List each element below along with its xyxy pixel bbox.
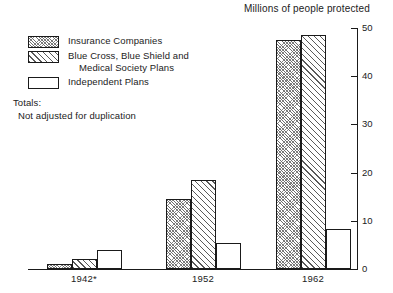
y-tick-label-10: 10 xyxy=(362,216,373,225)
y-tick-30 xyxy=(351,124,357,125)
group-label-1962: 1962 xyxy=(273,273,353,284)
y-tick-label-20: 20 xyxy=(362,168,373,177)
y-axis-line xyxy=(357,28,358,270)
bar-1962-series-2 xyxy=(301,35,326,269)
group-label-1952: 1952 xyxy=(163,273,243,284)
bar-1962-series-3 xyxy=(326,229,351,269)
bar-1942-series-3 xyxy=(97,250,122,269)
y-tick-50 xyxy=(351,28,357,29)
bar-1942-series-1 xyxy=(47,264,72,269)
bar-chart: Millions of people protected Insurance C… xyxy=(0,0,393,293)
y-tick-40 xyxy=(351,76,357,77)
x-axis-baseline xyxy=(28,269,358,270)
bar-1952-series-2 xyxy=(191,180,216,269)
y-tick-0 xyxy=(351,269,357,270)
bar-1962-series-1 xyxy=(276,40,301,269)
bar-1952-series-1 xyxy=(166,199,191,269)
bar-1952-series-3 xyxy=(216,243,241,270)
y-tick-label-30: 30 xyxy=(362,119,373,128)
group-label-1942: 1942* xyxy=(44,273,124,284)
y-tick-label-40: 40 xyxy=(362,71,373,80)
y-tick-10 xyxy=(351,221,357,222)
y-tick-20 xyxy=(351,173,357,174)
plot-area: 01020304050 1942*19521962 xyxy=(0,0,393,293)
bar-1942-series-2 xyxy=(72,259,97,269)
y-tick-label-0: 0 xyxy=(362,264,367,273)
y-tick-label-50: 50 xyxy=(362,23,373,32)
